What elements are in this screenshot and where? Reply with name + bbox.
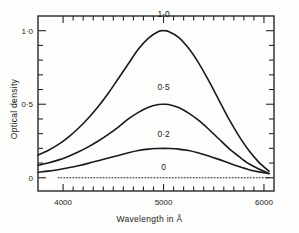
x-tick-label: 5000	[155, 198, 173, 207]
curve-label-3: 0·2	[157, 129, 170, 139]
plot-frame	[38, 16, 274, 191]
y-tick-label: 0·5	[21, 100, 33, 109]
y-tick-label: 0	[29, 174, 34, 183]
curve-2	[38, 104, 269, 173]
curve-value-labels: 1·00·50·20	[157, 9, 170, 171]
axes-box	[38, 16, 274, 191]
curve-label-1: 1·0	[157, 9, 170, 19]
curve-label-4: 0	[161, 162, 166, 172]
optical-density-plot: 1·00·50·20 400050006000 00·51·0	[0, 0, 299, 233]
curve-1	[38, 31, 269, 172]
figure-container: 1·00·50·20 400050006000 00·51·0 Optical …	[0, 0, 299, 233]
y-axis-title: Optical density	[9, 64, 19, 154]
x-axis-title: Wavelength in Å	[0, 214, 299, 224]
data-curves	[38, 31, 269, 178]
curve-label-2: 0·5	[157, 82, 170, 92]
y-tick-label: 1·0	[21, 27, 33, 36]
y-tick-labels: 00·51·0	[21, 27, 33, 183]
x-tick-label: 6000	[255, 198, 273, 207]
x-tick-labels: 400050006000	[54, 198, 273, 207]
x-tick-label: 4000	[54, 198, 72, 207]
